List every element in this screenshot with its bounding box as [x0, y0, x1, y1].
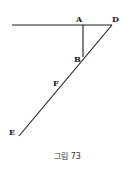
label-A: A [75, 14, 83, 24]
label-F: F [53, 78, 59, 88]
geometry-figure: A D B F E [0, 0, 135, 172]
label-D: D [112, 14, 119, 24]
label-B: B [74, 54, 81, 64]
diagonal-line-DE [19, 25, 112, 136]
figure-caption: 그림 73 [0, 150, 135, 161]
label-E: E [9, 127, 15, 137]
